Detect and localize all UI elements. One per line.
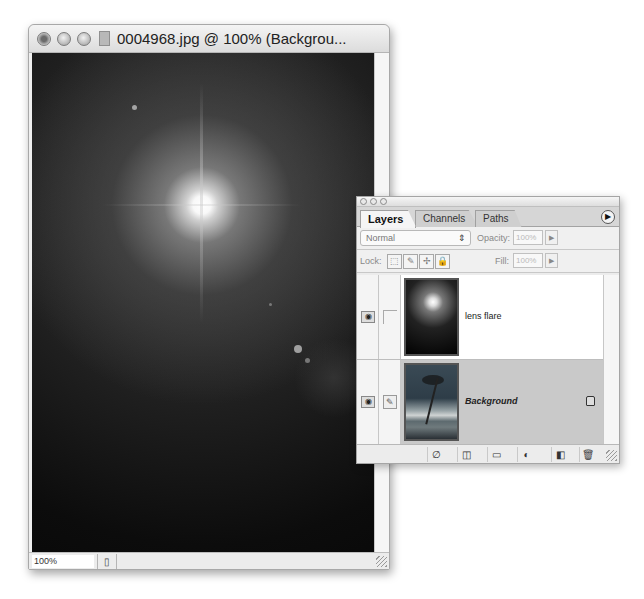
layers-scrollbar[interactable]	[603, 275, 619, 445]
document-titlebar[interactable]: 0004968.jpg @ 100% (Backgrou...	[29, 25, 389, 53]
layer-thumbnail	[404, 363, 459, 441]
visibility-column: ◉	[357, 275, 379, 359]
lock-all-button[interactable]: 🔒	[435, 254, 450, 269]
link-column	[379, 275, 401, 359]
lock-image-button[interactable]: ✎	[403, 254, 418, 269]
palm-tree-shape	[422, 375, 444, 385]
flare-artifact	[132, 105, 137, 110]
adjustment-layer-button[interactable]: ◐	[517, 447, 535, 462]
zoom-level-field[interactable]: 100%	[32, 555, 94, 568]
layer-thumbnail	[404, 278, 459, 356]
lock-row: Lock: ⬚ ✎ ✢ 🔒 Fill: 100% ▶	[357, 250, 619, 273]
blend-row: Normal ⇕ Opacity: 100% ▶	[357, 227, 619, 250]
opacity-field[interactable]: 100%	[513, 230, 543, 245]
visibility-column: ◉	[357, 360, 379, 444]
resize-grip-icon[interactable]	[606, 450, 617, 461]
layer-row-lens-flare[interactable]: ◉ lens flare	[357, 275, 603, 360]
status-bar: 100% ▯	[29, 552, 389, 569]
new-layer-button[interactable]: ◧	[551, 447, 569, 462]
eye-icon[interactable]: ◉	[361, 311, 375, 323]
opacity-slider-button[interactable]: ▶	[545, 230, 558, 245]
document-proxy-icon[interactable]	[99, 31, 110, 46]
palette-minimize-button[interactable]	[370, 198, 377, 205]
lock-transparency-button[interactable]: ⬚	[387, 254, 402, 269]
flare-artifact	[269, 303, 272, 306]
layer-row-background[interactable]: ◉ ✎ Background	[357, 360, 603, 445]
minimize-button[interactable]	[57, 32, 71, 46]
palette-titlebar[interactable]	[357, 197, 619, 207]
delete-layer-button[interactable]: 🗑	[579, 447, 597, 462]
fill-field[interactable]: 100%	[513, 253, 543, 268]
tab-layers[interactable]: Layers	[360, 210, 416, 228]
resize-grip-icon[interactable]	[376, 556, 387, 567]
document-info-button[interactable]: ▯	[97, 554, 117, 569]
eye-icon[interactable]: ◉	[361, 396, 375, 408]
flare-ray	[200, 83, 203, 323]
layer-name[interactable]: lens flare	[465, 311, 502, 321]
image-canvas[interactable]	[32, 53, 374, 553]
flare-artifact	[294, 345, 302, 353]
document-title: 0004968.jpg @ 100% (Backgrou...	[117, 30, 347, 47]
opacity-label: Opacity:	[477, 233, 510, 243]
flare-ray	[102, 204, 302, 206]
layer-style-button[interactable]: ∅	[427, 447, 445, 462]
layers-palette: Layers Channels Paths ▶ Normal ⇕ Opacity…	[356, 196, 620, 464]
palette-close-button[interactable]	[360, 198, 367, 205]
palette-zoom-button[interactable]	[380, 198, 387, 205]
layer-name[interactable]: Background	[465, 396, 518, 406]
lock-label: Lock:	[360, 256, 382, 266]
brush-column: ✎	[379, 360, 401, 444]
zoom-button[interactable]	[77, 32, 91, 46]
add-mask-button[interactable]: ◫	[457, 447, 475, 462]
layers-list: ◉ lens flare ◉ ✎ Background	[357, 275, 603, 445]
tab-paths[interactable]: Paths	[475, 210, 522, 227]
close-button[interactable]	[37, 32, 51, 46]
fill-slider-button[interactable]: ▶	[545, 253, 558, 268]
new-group-button[interactable]: ▭	[487, 447, 505, 462]
fill-label: Fill:	[495, 256, 509, 266]
palette-tabs: Layers Channels Paths ▶	[357, 207, 619, 227]
brush-icon[interactable]: ✎	[383, 395, 397, 409]
tab-channels[interactable]: Channels	[415, 210, 478, 227]
link-icon[interactable]	[383, 310, 397, 324]
palette-toolbar: ∅ ◫ ▭ ◐ ◧ 🗑	[357, 444, 619, 463]
palette-menu-button[interactable]: ▶	[601, 210, 615, 224]
document-window: 0004968.jpg @ 100% (Backgrou... 100% ▯	[28, 24, 390, 570]
lock-position-button[interactable]: ✢	[419, 254, 434, 269]
blend-mode-select[interactable]: Normal ⇕	[360, 230, 471, 246]
lock-icon	[586, 396, 595, 406]
blend-mode-value: Normal	[366, 233, 395, 243]
select-arrows-icon: ⇕	[458, 231, 466, 245]
